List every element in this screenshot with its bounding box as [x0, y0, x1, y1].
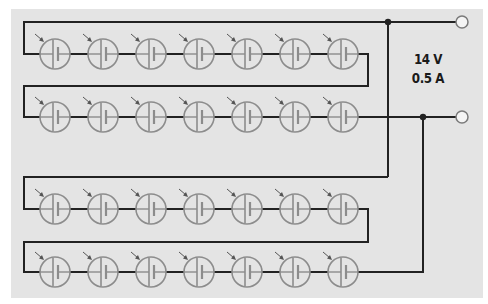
bottom-junction: [420, 114, 426, 120]
voltage-label: 14 V: [403, 51, 454, 67]
current-label: 0.5 A: [403, 70, 454, 86]
negative-terminal: [456, 111, 468, 123]
top-junction: [385, 19, 391, 25]
circuit-diagram: [0, 0, 488, 304]
positive-terminal: [456, 16, 468, 28]
